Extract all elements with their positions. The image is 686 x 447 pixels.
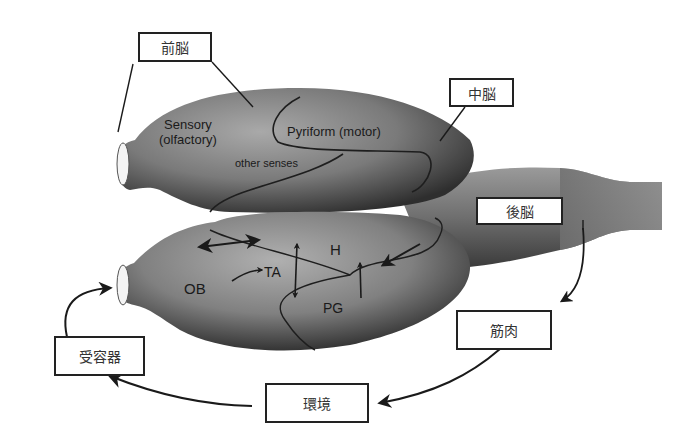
box-midbrain: 中脳 [449,78,514,107]
label-other-senses: other senses [235,157,298,169]
forebrain-lower-shape [117,212,470,351]
forebrain-upper-shape [117,88,474,213]
box-muscle: 筋肉 [456,310,552,350]
label-pyriform: Pyriform (motor) [287,124,381,139]
label-sensory-line1: Sensory [159,117,217,132]
label-pg: PG [323,300,343,316]
box-environment: 環境 [265,383,369,423]
label-sensory-line2: (olfactory) [159,132,217,147]
box-hindbrain: 後脳 [476,197,563,225]
brain-diagram: Sensory (olfactory) Pyriform (motor) oth… [0,0,686,447]
label-h: H [330,241,341,258]
box-forebrain: 前脳 [138,32,212,62]
label-sensory: Sensory (olfactory) [159,117,217,147]
label-ta: TA [264,264,281,280]
box-receptor: 受容器 [54,336,145,376]
label-ob: OB [184,280,206,297]
diagram-canvas [0,0,686,447]
